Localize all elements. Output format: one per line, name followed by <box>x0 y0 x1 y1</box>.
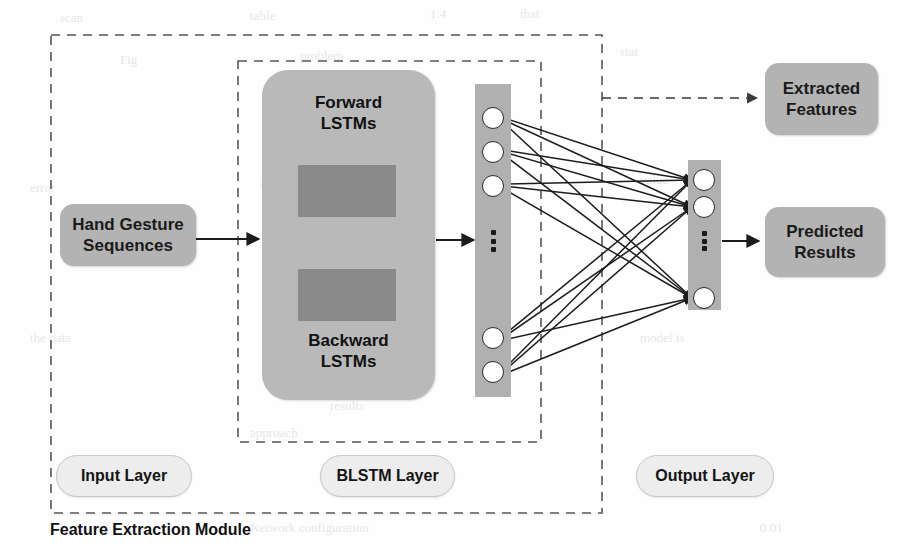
hand-gesture-sequences-box[interactable]: Hand Gesture Sequences <box>60 204 196 266</box>
output-layer-ellipsis-icon <box>701 231 707 251</box>
hidden-node[interactable] <box>482 361 504 383</box>
output-node[interactable] <box>693 169 715 191</box>
predicted-results-line2: Results <box>794 242 855 263</box>
extracted-features-line1: Extracted <box>783 78 860 99</box>
blstm-module-box: Forward LSTMs Backward LSTMs <box>262 70 435 400</box>
extracted-features-line2: Features <box>786 99 857 120</box>
hidden-node[interactable] <box>482 327 504 349</box>
hidden-node[interactable] <box>482 141 504 163</box>
input-layer-label-text: Input Layer <box>81 467 167 485</box>
diagram-canvas: scantable1.4thatFigproblemstaterrorand t… <box>0 0 917 554</box>
predicted-results-box[interactable]: Predicted Results <box>765 207 885 277</box>
backward-lstm-bar <box>298 269 396 321</box>
hidden-node[interactable] <box>482 107 504 129</box>
extracted-features-box[interactable]: Extracted Features <box>765 63 878 135</box>
forward-lstms-label: Forward LSTMs <box>262 92 435 135</box>
output-node[interactable] <box>693 287 715 309</box>
blstm-layer-label-text: BLSTM Layer <box>336 467 438 485</box>
backward-lstms-label: Backward LSTMs <box>262 330 435 373</box>
hand-gesture-sequences-line2: Sequences <box>83 235 173 256</box>
predicted-results-line1: Predicted <box>786 221 863 242</box>
forward-lstm-bar <box>298 165 396 217</box>
network-connections <box>504 118 692 374</box>
blstm-layer-label[interactable]: BLSTM Layer <box>320 455 455 497</box>
feature-extraction-module-caption-text: Feature Extraction Module <box>50 521 251 538</box>
hidden-node[interactable] <box>482 175 504 197</box>
hidden-layer-ellipsis-icon <box>490 230 496 252</box>
feature-extraction-module-caption: Feature Extraction Module <box>50 521 251 539</box>
output-layer-label-text: Output Layer <box>655 467 755 485</box>
hand-gesture-sequences-line1: Hand Gesture <box>72 214 183 235</box>
output-node[interactable] <box>693 196 715 218</box>
input-layer-label[interactable]: Input Layer <box>56 455 192 497</box>
output-layer-label[interactable]: Output Layer <box>636 455 774 497</box>
